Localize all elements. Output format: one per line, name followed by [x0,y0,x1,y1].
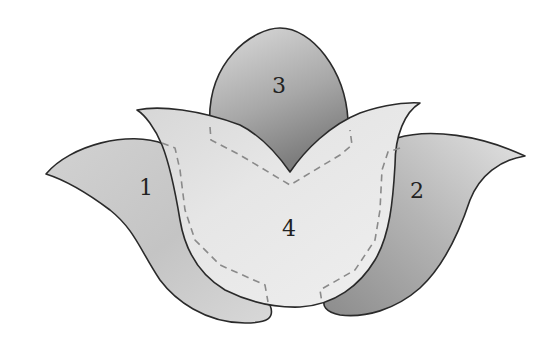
piece-1-label: 1 [139,175,153,200]
piece-4-label: 4 [282,216,296,241]
piece-3-label: 3 [272,73,286,98]
tulip-applique-diagram: 3 1 2 4 [0,0,554,361]
piece-2-label: 2 [410,178,424,203]
